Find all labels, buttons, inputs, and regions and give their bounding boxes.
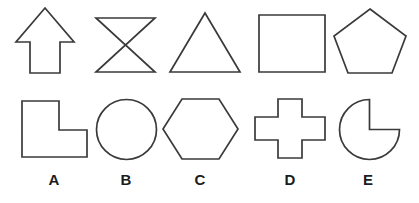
shape-triangle: [170, 13, 240, 72]
shape-cross: [255, 99, 325, 158]
shape-bowtie: [96, 18, 155, 72]
shape-label-b: B: [106, 170, 146, 190]
shape-label-row: A B C D E: [0, 170, 419, 196]
shape-label-c: C: [180, 170, 220, 190]
shape-label-e: E: [348, 170, 388, 190]
shape-square: [259, 15, 325, 72]
shapes-figure: A B C D E: [0, 0, 419, 203]
shape-up-arrow: [16, 8, 74, 73]
shape-hexagon: [163, 99, 238, 159]
shape-pentagon: [334, 9, 406, 73]
shape-circle: [97, 100, 157, 160]
shape-pacman: [340, 100, 400, 160]
shape-label-a: A: [34, 170, 74, 190]
shape-l-shape: [22, 101, 87, 157]
shape-label-d: D: [270, 170, 310, 190]
